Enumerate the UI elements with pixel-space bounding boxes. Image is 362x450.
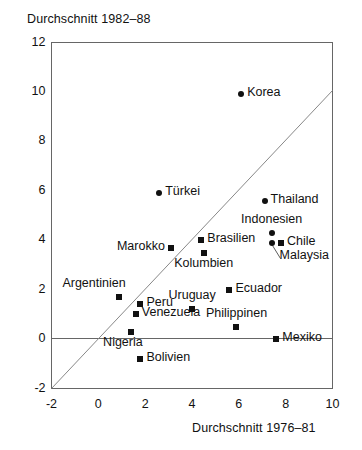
data-point-label: Ecuador (235, 282, 282, 295)
data-point-label: Türkei (165, 185, 200, 198)
data-point-marker (198, 237, 204, 243)
data-point-label: Uruguay (169, 289, 216, 302)
data-point-marker (269, 240, 275, 246)
data-point-marker (133, 311, 139, 317)
data-point-marker (233, 324, 239, 330)
data-point-marker (262, 198, 268, 204)
data-point-marker (201, 250, 207, 256)
data-point-label: Marokko (117, 240, 165, 253)
data-point-marker (137, 356, 143, 362)
x-tick-label: 4 (172, 397, 212, 411)
data-point-label: Korea (247, 86, 280, 99)
y-tick-label: 8 (39, 133, 46, 147)
data-point-label: Chile (287, 235, 316, 248)
x-tick-label: 0 (78, 397, 118, 411)
x-tick-label: 10 (313, 397, 353, 411)
data-point-label: Brasilien (207, 232, 255, 245)
y-tick-label: -2 (34, 381, 45, 395)
data-point-label: Nigeria (103, 336, 143, 349)
y-tick-label: 2 (39, 282, 46, 296)
x-tick-label: 2 (125, 397, 165, 411)
x-tick-label: 8 (266, 397, 306, 411)
data-point-marker (189, 306, 195, 312)
data-point-label: Indonesien (241, 213, 302, 226)
data-point-marker (128, 329, 134, 335)
x-tick-label: -2 (32, 397, 72, 411)
y-tick-label: 4 (39, 232, 46, 246)
data-point-marker (273, 336, 279, 342)
data-point-label: Kolumbien (174, 257, 233, 270)
data-point-marker (226, 287, 232, 293)
data-point-label: Mexiko (282, 331, 322, 344)
data-point-label: Malaysia (280, 249, 329, 262)
data-point-marker (269, 230, 275, 236)
y-tick-label: 6 (39, 183, 46, 197)
x-tick-label: 6 (219, 397, 259, 411)
data-point-label: Argentinien (62, 277, 125, 290)
data-point-marker (116, 294, 122, 300)
scatter-chart: Durchschnitt 1982–88 Durchschnitt 1976–8… (0, 0, 362, 450)
data-point-marker (278, 240, 284, 246)
y-tick-label: 12 (32, 35, 46, 49)
data-point-label: Bolivien (146, 351, 190, 364)
y-tick-label: 10 (32, 84, 46, 98)
y-tick-label: 0 (39, 331, 46, 345)
data-point-label: Philippinen (206, 307, 267, 320)
data-point-label: Thailand (271, 193, 319, 206)
plot-frame-svg (0, 0, 362, 450)
data-point-marker (168, 245, 174, 251)
